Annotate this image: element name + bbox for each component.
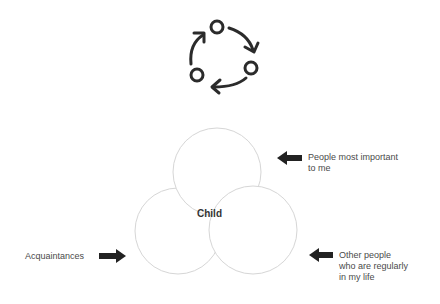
- arrow-left-icon: [309, 248, 333, 262]
- label-regular-people: Other people who are regularly in my lif…: [339, 250, 408, 283]
- circle-regular-people: [209, 186, 297, 274]
- label-acquaintances: Acquaintances: [25, 251, 84, 262]
- arrow-right-icon: [99, 249, 126, 263]
- center-label: Child: [197, 208, 222, 219]
- arrow-left-icon: [277, 151, 302, 165]
- label-most-important: People most important to me: [308, 152, 398, 174]
